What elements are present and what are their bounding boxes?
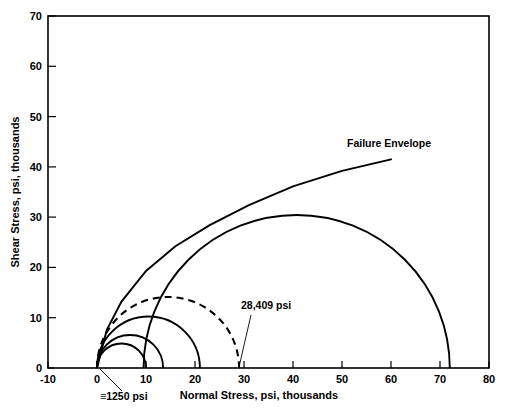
y-tick-label-30: 30 bbox=[30, 211, 42, 223]
x-tick-label-20: 20 bbox=[189, 373, 201, 385]
y-tick-label-10: 10 bbox=[30, 312, 42, 324]
x-tick-label-50: 50 bbox=[336, 373, 348, 385]
cohesion-label: ≡1250 psi bbox=[100, 390, 148, 402]
y-tick-label-70: 70 bbox=[30, 10, 42, 22]
x-tick-label-neg10: -10 bbox=[40, 373, 56, 385]
failure-envelope-label: Failure Envelope bbox=[347, 137, 431, 149]
x-tick-label-70: 70 bbox=[434, 373, 446, 385]
y-tick-label-60: 60 bbox=[30, 60, 42, 72]
confining-pressure-label: 28,409 psi bbox=[241, 299, 291, 311]
chart-background bbox=[0, 0, 511, 412]
mohr-circle-chart: 0 10 20 30 40 50 60 70 -10 0 10 20 30 40… bbox=[0, 0, 511, 412]
x-tick-label-60: 60 bbox=[385, 373, 397, 385]
y-tick-label-40: 40 bbox=[30, 161, 42, 173]
x-tick-label-30: 30 bbox=[238, 373, 250, 385]
y-tick-label-20: 20 bbox=[30, 261, 42, 273]
x-tick-label-40: 40 bbox=[287, 373, 299, 385]
y-axis-title: Shear Stress, psi, thousands bbox=[9, 117, 21, 268]
x-tick-label-0: 0 bbox=[94, 373, 100, 385]
x-tick-label-80: 80 bbox=[483, 373, 495, 385]
x-axis-title: Normal Stress, psi, thousands bbox=[180, 389, 338, 401]
y-tick-label-50: 50 bbox=[30, 111, 42, 123]
x-tick-label-10: 10 bbox=[140, 373, 152, 385]
